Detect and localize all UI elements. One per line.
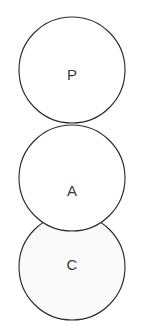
venn-diagram-svg: P A C <box>0 0 147 335</box>
circle-a-shape[interactable] <box>19 125 125 231</box>
circle-c-label: C <box>66 256 77 273</box>
circle-a-label: A <box>67 182 77 199</box>
venn-diagram-canvas: P A C <box>0 0 147 335</box>
circle-p-label: P <box>67 66 77 83</box>
